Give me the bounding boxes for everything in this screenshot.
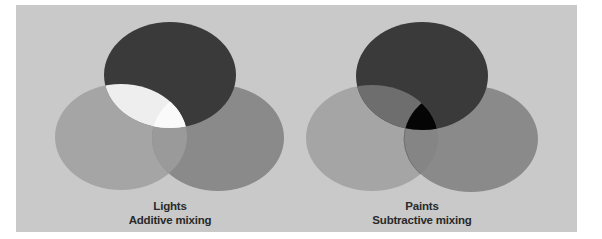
additive-subtitle: Additive mixing [90, 213, 250, 227]
additive-caption: Lights Additive mixing [90, 199, 250, 227]
additive-title: Lights [90, 199, 250, 213]
additive-venn [55, 22, 284, 191]
subtractive-venn [306, 22, 538, 192]
subtractive-caption: Paints Subtractive mixing [342, 199, 502, 227]
subtractive-subtitle: Subtractive mixing [342, 213, 502, 227]
subtractive-title: Paints [342, 199, 502, 213]
